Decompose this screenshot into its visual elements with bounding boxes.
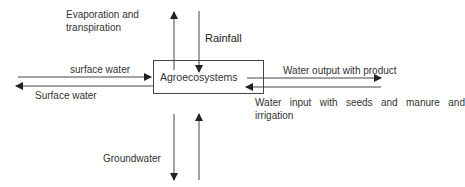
evaporation-label-line2: transpiration [66,21,139,34]
surface-water-in-label: surface water [70,63,130,76]
surface-water-out-label: Surface water [35,89,97,102]
evaporation-label: Evaporation and transpiration [66,8,139,34]
water-output-label: Water output with product [283,64,397,77]
agroecosystems-label: Agroecosystems [160,71,238,83]
evaporation-label-line1: Evaporation and [66,8,139,21]
groundwater-label: Groundwater [103,152,161,165]
rainfall-label: Rainfall [205,32,242,45]
water-input-label: Water input with seeds and manure and ir… [255,96,465,122]
